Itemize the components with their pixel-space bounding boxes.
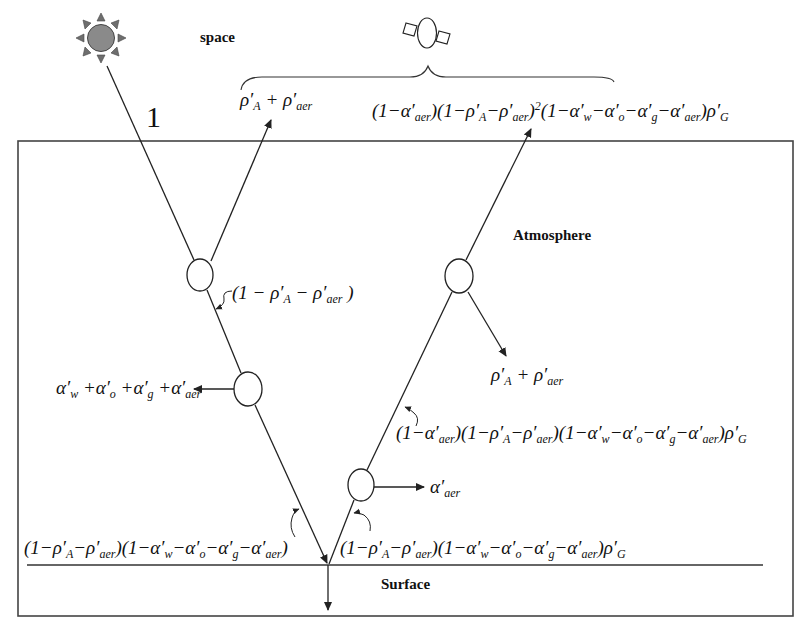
satellite-brace [241,66,614,90]
surface-label: Surface [381,577,430,592]
interaction-node-3 [445,259,473,293]
pointer-arrow-1 [216,291,232,309]
satellite-signal-eq: (1−α′aer)(1−ρ′A−ρ′aer)2(1−α′w−α′o−α′g−α′… [372,100,729,123]
toa-reflectance-eq: ρ′A + ρ′aer [240,90,312,112]
aerosol-absorb-eq: α′aer [430,477,460,499]
incident-value: 1 [146,102,161,132]
transmittance-eq: (1 − ρ′A − ρ′aer ) [232,283,353,305]
scatter-down-arrow [468,292,506,356]
sun-icon [76,13,126,63]
absorption-eq: α′w +α′o +α′g +α′aer [56,378,201,400]
surface-incident-eq: (1−ρ′A−ρ′aer)(1−α′w−α′o−α′g−α′aer) [24,538,288,560]
surface-reflected-eq: (1−ρ′A−ρ′aer)(1−α′w−α′o−α′g−α′aer)ρ′G [340,538,626,560]
space-label: space [200,30,235,45]
scatter-down-eq: ρ′A + ρ′aer [491,365,563,387]
radiative-transfer-diagram: space Atmosphere Surface 1 ρ′A + ρ′aer (… [0,0,811,637]
incident-beam [107,66,194,260]
atmosphere-label: Atmosphere [513,228,591,243]
after-aerosol-eq: (1−α′aer)(1−ρ′A−ρ′aer)(1−α′w−α′o−α′g−α′a… [396,423,747,445]
interaction-node-2 [234,372,262,406]
pointer-arrow-3 [354,513,370,531]
satellite-icon [403,18,450,48]
interaction-node-4 [348,469,374,501]
interaction-node-1 [187,259,213,291]
pointer-arrow-2 [291,509,299,537]
